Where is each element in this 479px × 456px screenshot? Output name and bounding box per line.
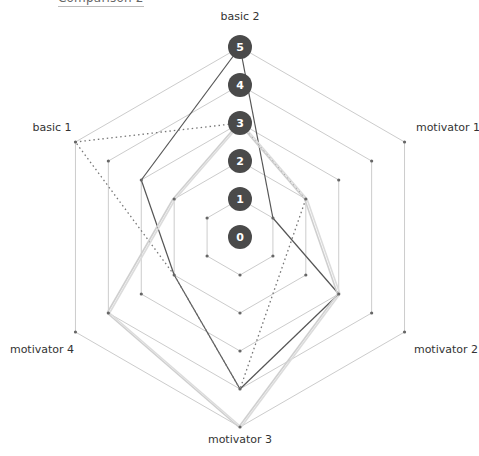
axis-label-motivator-2: motivator 2 [414, 343, 478, 356]
series-line [305, 199, 338, 294]
level-number: 5 [236, 41, 244, 54]
axis-label-motivator-1: motivator 1 [416, 121, 479, 134]
axis-label-basic-1: basic 1 [32, 121, 71, 134]
grid-vertex [205, 254, 208, 257]
level-number: 2 [236, 155, 244, 168]
series-line [240, 294, 339, 389]
series-line [174, 275, 240, 389]
grid-vertex [304, 197, 307, 200]
series-line [239, 294, 338, 427]
series-line [110, 313, 242, 427]
series-line [307, 199, 340, 294]
series-line [141, 47, 240, 180]
axis-label-motivator-3: motivator 3 [208, 433, 272, 446]
grid-vertex [271, 254, 274, 257]
grid-vertex [74, 330, 77, 333]
grid-vertex [173, 273, 176, 276]
level-number: 1 [236, 193, 244, 206]
grid-vertex [337, 292, 340, 295]
series-line [141, 180, 174, 275]
level-number: 0 [236, 231, 244, 244]
grid-vertex [140, 292, 143, 295]
grid-vertex [238, 273, 241, 276]
grid-vertex [370, 159, 373, 162]
grid-vertex [173, 197, 176, 200]
axis-label-basic-2: basic 2 [220, 10, 259, 23]
grid-vertex [271, 216, 274, 219]
series-line [107, 199, 173, 313]
grid-vertex [74, 140, 77, 143]
series-line [241, 294, 340, 427]
grid-vertex [304, 273, 307, 276]
grid-vertex [140, 178, 143, 181]
grid-vertex [238, 387, 241, 390]
grid-vertex [403, 140, 406, 143]
radar-chart: 012345 basic 2motivator 1motivator 2moti… [0, 0, 479, 456]
level-number: 3 [236, 117, 244, 130]
grid-vertex [238, 311, 241, 314]
series-line [75, 142, 174, 275]
grid-vertex [238, 349, 241, 352]
series-line [107, 313, 239, 427]
grid-vertex [238, 425, 241, 428]
grid-vertex [337, 178, 340, 181]
series-line [110, 199, 176, 313]
grid-vertex [403, 330, 406, 333]
grid-vertex [205, 216, 208, 219]
axis-label-motivator-4: motivator 4 [10, 343, 74, 356]
grid-vertex [107, 159, 110, 162]
level-badges: 012345 [228, 35, 252, 249]
grid-vertex [107, 311, 110, 314]
grid-vertex [370, 311, 373, 314]
level-number: 4 [236, 79, 244, 92]
